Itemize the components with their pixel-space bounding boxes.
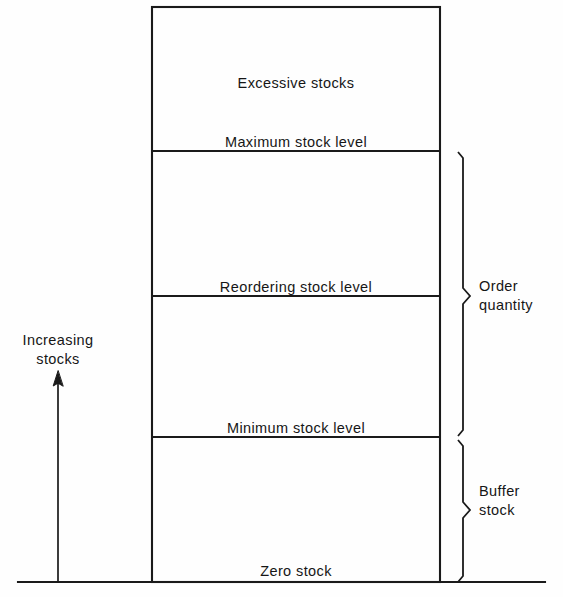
order-quantity-line-1: Order: [479, 277, 533, 296]
buffer-stock-brace: [458, 440, 470, 582]
buffer-stock-line-1: Buffer: [479, 482, 520, 501]
label-order-quantity: Order quantity: [479, 277, 533, 314]
order-quantity-brace: [458, 152, 470, 436]
label-increasing-stocks: Increasing stocks: [23, 331, 94, 368]
axis-label-line-2: stocks: [23, 350, 94, 369]
label-buffer-stock: Buffer stock: [479, 482, 520, 519]
label-minimum-stock-level: Minimum stock level: [227, 419, 365, 438]
order-quantity-line-2: quantity: [479, 296, 533, 315]
axis-label-line-1: Increasing: [23, 331, 94, 350]
label-zero-stock: Zero stock: [260, 562, 332, 581]
diagram-canvas: Excessive stocks Maximum stock level Reo…: [0, 0, 563, 597]
increasing-stocks-arrow-head: [53, 371, 63, 386]
buffer-stock-line-2: stock: [479, 501, 520, 520]
label-maximum-stock-level: Maximum stock level: [225, 133, 367, 152]
label-reordering-stock-level: Reordering stock level: [220, 278, 372, 297]
label-excessive-stocks: Excessive stocks: [238, 74, 355, 93]
